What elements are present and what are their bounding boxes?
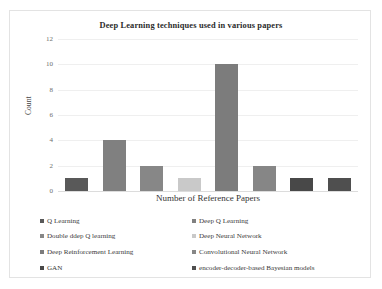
plot-area: 121086420 bbox=[58, 39, 358, 191]
legend-swatch-icon bbox=[192, 234, 196, 238]
bar[interactable] bbox=[140, 166, 163, 191]
bar-slot bbox=[171, 39, 209, 191]
legend-item[interactable]: Deep Q Learning bbox=[192, 217, 366, 225]
y-axis-tick-label: 12 bbox=[46, 35, 53, 43]
legend-row: Q LearningDeep Q Learning bbox=[40, 213, 366, 229]
chart-title: Deep Learning techniques used in various… bbox=[10, 21, 372, 30]
legend-label: Double ddep Q learning bbox=[47, 232, 115, 240]
legend-label: Deep Neural Network bbox=[199, 232, 262, 240]
legend-label: Deep Q Learning bbox=[199, 217, 248, 225]
gridline bbox=[58, 191, 358, 192]
legend-label: encoder-decoder-based Bayesian models bbox=[199, 264, 315, 272]
chart-container: Deep Learning techniques used in various… bbox=[9, 10, 371, 278]
legend-item[interactable]: encoder-decoder-based Bayesian models bbox=[192, 264, 366, 272]
legend-label: Convolutional Neural Network bbox=[199, 248, 287, 256]
x-axis-title: Number of Reference Papers bbox=[58, 193, 358, 203]
bar-slot bbox=[321, 39, 359, 191]
y-axis-tick-label: 4 bbox=[50, 136, 54, 144]
legend-swatch-icon bbox=[40, 219, 44, 223]
bar[interactable] bbox=[65, 178, 88, 191]
bar[interactable] bbox=[215, 64, 238, 191]
y-axis-tick-label: 10 bbox=[46, 60, 53, 68]
legend-item[interactable]: Convolutional Neural Network bbox=[192, 248, 366, 256]
legend-row: GANencoder-decoder-based Bayesian models bbox=[40, 260, 366, 276]
bar-slot bbox=[283, 39, 321, 191]
bar-slot bbox=[246, 39, 284, 191]
legend-item[interactable]: Q Learning bbox=[40, 217, 192, 225]
y-axis-tick-label: 6 bbox=[50, 111, 54, 119]
y-axis-tick-label: 2 bbox=[50, 162, 54, 170]
bar[interactable] bbox=[290, 178, 313, 191]
y-axis-tick-label: 8 bbox=[50, 86, 54, 94]
legend-swatch-icon bbox=[192, 250, 196, 254]
y-axis-tick-label: 0 bbox=[50, 187, 54, 195]
legend-item[interactable]: Double ddep Q learning bbox=[40, 232, 192, 240]
legend-item[interactable]: Deep Reinforcement Learning bbox=[40, 248, 192, 256]
legend-swatch-icon bbox=[40, 250, 44, 254]
bar-slot bbox=[208, 39, 246, 191]
bar[interactable] bbox=[103, 140, 126, 191]
bar-slot bbox=[133, 39, 171, 191]
chart-legend: Q LearningDeep Q LearningDouble ddep Q l… bbox=[40, 213, 366, 275]
legend-label: Q Learning bbox=[47, 217, 80, 225]
y-axis-title: Count bbox=[24, 96, 33, 115]
legend-item[interactable]: Deep Neural Network bbox=[192, 232, 366, 240]
bar[interactable] bbox=[178, 178, 201, 191]
legend-swatch-icon bbox=[40, 266, 44, 270]
bar-slot bbox=[58, 39, 96, 191]
legend-label: Deep Reinforcement Learning bbox=[47, 248, 133, 256]
bar[interactable] bbox=[328, 178, 351, 191]
bar[interactable] bbox=[253, 166, 276, 191]
legend-swatch-icon bbox=[192, 266, 196, 270]
bar-slot bbox=[96, 39, 134, 191]
legend-row: Double ddep Q learningDeep Neural Networ… bbox=[40, 229, 366, 245]
legend-item[interactable]: GAN bbox=[40, 264, 192, 272]
legend-label: GAN bbox=[47, 264, 62, 272]
legend-row: Deep Reinforcement LearningConvolutional… bbox=[40, 244, 366, 260]
bar-series bbox=[58, 39, 358, 191]
legend-swatch-icon bbox=[40, 234, 44, 238]
legend-swatch-icon bbox=[192, 219, 196, 223]
